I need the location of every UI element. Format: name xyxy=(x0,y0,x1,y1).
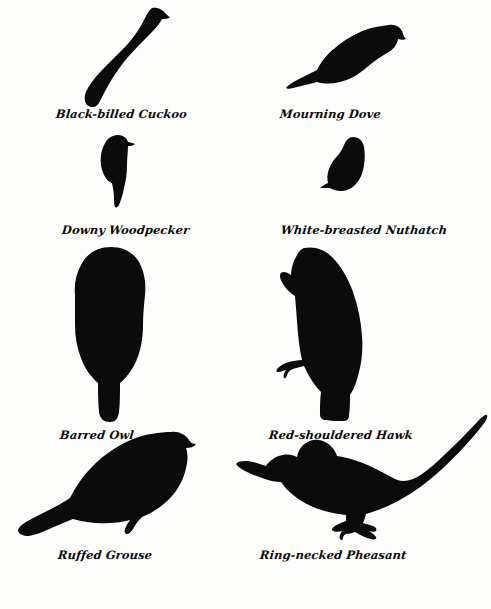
label-black-billed-cuckoo: Black-billed Cuckoo xyxy=(55,107,188,121)
bird-silhouette-chart: Black-billed Cuckoo Mourning Dove Downy … xyxy=(0,0,491,609)
ruffed-grouse-silhouette-icon xyxy=(18,428,198,544)
label-ruffed-grouse: Ruffed Grouse xyxy=(57,548,153,562)
label-white-breasted-nuthatch: White-breasted Nuthatch xyxy=(280,223,448,237)
downy-woodpecker-silhouette-icon xyxy=(96,134,136,208)
white-breasted-nuthatch-silhouette-icon xyxy=(320,136,372,194)
mourning-dove-silhouette-icon xyxy=(286,18,406,90)
label-mourning-dove: Mourning Dove xyxy=(279,107,381,121)
red-shouldered-hawk-silhouette-icon xyxy=(276,245,372,421)
ring-necked-pheasant-silhouette-icon xyxy=(236,408,488,546)
label-ring-necked-pheasant: Ring-necked Pheasant xyxy=(259,548,407,562)
black-billed-cuckoo-silhouette-icon xyxy=(84,2,170,108)
label-downy-woodpecker: Downy Woodpecker xyxy=(61,223,190,237)
barred-owl-silhouette-icon xyxy=(70,245,152,423)
